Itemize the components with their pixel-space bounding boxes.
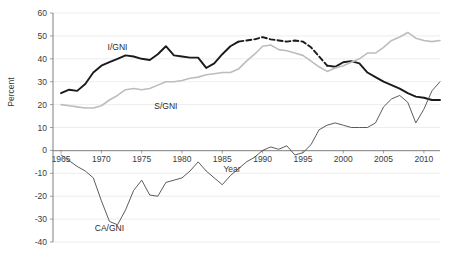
series-label-sgni: S/GNI <box>154 101 177 111</box>
y-axis-ticks-group: 6050403020100-10-20-30-40 <box>35 8 53 247</box>
series-labels-group: I/GNIS/GNICA/GNI <box>95 42 178 233</box>
series-label-igni: I/GNI <box>108 42 128 52</box>
y-tick-label: 40 <box>38 54 48 64</box>
x-tick-label: 1995 <box>293 154 312 164</box>
chart-plot-area: 6050403020100-10-20-30-40 19651970197519… <box>0 0 452 257</box>
y-tick-label: -20 <box>35 191 48 201</box>
y-tick-label: 60 <box>38 8 48 18</box>
series-label-cagni: CA/GNI <box>95 223 124 233</box>
y-tick-label: 30 <box>38 77 48 87</box>
series-line-igni <box>327 61 440 100</box>
y-tick-label: -40 <box>35 237 48 247</box>
x-tick-label: 2010 <box>414 154 433 164</box>
line-chart: 6050403020100-10-20-30-40 19651970197519… <box>0 0 452 257</box>
x-tick-label: 2000 <box>334 154 353 164</box>
y-tick-label: 10 <box>38 123 48 133</box>
y-tick-label: 50 <box>38 31 48 41</box>
series-line-igni <box>61 42 238 94</box>
x-axis-title: Year <box>223 164 240 174</box>
y-tick-label: 20 <box>38 100 48 110</box>
x-tick-label: 2005 <box>374 154 393 164</box>
x-tick-label: 1980 <box>173 154 192 164</box>
x-tick-label: 1985 <box>213 154 232 164</box>
x-axis-ticks-group: 1965197019751980198519901995200020052010 <box>52 150 434 164</box>
y-tick-label: -30 <box>35 214 48 224</box>
y-tick-label: 0 <box>42 145 47 155</box>
x-tick-label: 1970 <box>92 154 111 164</box>
y-axis-title: Percent <box>6 77 16 107</box>
y-tick-label: -10 <box>35 168 48 178</box>
x-tick-label: 1990 <box>253 154 272 164</box>
x-tick-label: 1975 <box>132 154 151 164</box>
series-line-igni-dashed <box>238 37 327 66</box>
